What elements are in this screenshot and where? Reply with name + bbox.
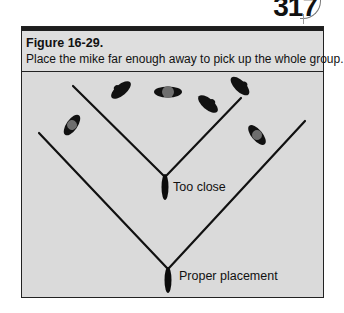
- person-icon: [154, 86, 182, 98]
- too-close-label: Too close: [173, 180, 226, 194]
- person-icon: [195, 91, 221, 116]
- person-icon: [245, 122, 269, 147]
- inner-pickup-left-line: [73, 86, 164, 176]
- person-icon: [107, 77, 133, 102]
- proper-placement-label: Proper placement: [179, 269, 278, 283]
- person-icon: [61, 112, 84, 138]
- outer-pickup-right-line: [169, 121, 305, 268]
- microphone-too-close-icon: [162, 174, 169, 200]
- microphone-proper-icon: [165, 267, 172, 293]
- outer-pickup-left-line: [39, 133, 167, 268]
- inner-pickup-right-line: [166, 98, 241, 176]
- person-icon: [228, 73, 254, 99]
